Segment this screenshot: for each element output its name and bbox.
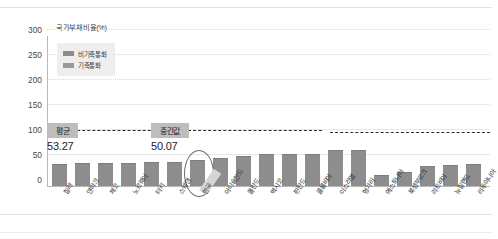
- y-tick-300: 300: [0, 25, 42, 35]
- annotation-median-label: 중간값: [151, 123, 189, 138]
- plot-area: 국가부채비율(%) 300 250 200 150 100 50 0 비기축통화…: [0, 7, 492, 214]
- y-tick-200: 200: [0, 75, 42, 85]
- x-axis-labels: 칠레 덴마크 체코 노르웨이 터키 스웨덴 한국 아이슬란드 폴란드 멕시코 핀…: [47, 187, 490, 239]
- y-axis-title: 국가부채비율(%): [56, 22, 106, 32]
- y-tick-0: 0: [0, 175, 42, 185]
- annotation-average-label: 평균: [47, 123, 78, 138]
- y-tick-100: 100: [0, 125, 42, 135]
- y-tick-50: 50: [0, 150, 42, 160]
- annotation-average-value: 53.27: [47, 140, 78, 152]
- annotation-median-value: 50.07: [151, 140, 189, 152]
- annotation-average: 평균 53.27: [47, 120, 78, 152]
- refline-median: [330, 132, 490, 133]
- y-tick-250: 250: [0, 50, 42, 60]
- annotation-median: 중간값 50.07: [151, 120, 189, 152]
- bar-group: [47, 36, 490, 186]
- gridline-300: [47, 29, 490, 30]
- y-tick-150: 150: [0, 100, 42, 110]
